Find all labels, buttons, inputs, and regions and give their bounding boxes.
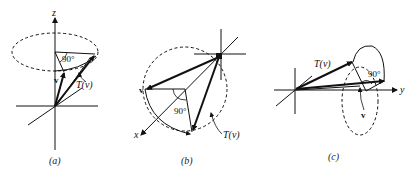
- radius-line: [55, 52, 95, 54]
- panel-b: x 90° v T(v) (b): [133, 29, 246, 167]
- caption-b: (b): [181, 155, 193, 167]
- angle-label: 90°: [62, 54, 75, 64]
- vector-v-label: v: [54, 75, 59, 85]
- angle-arc: [173, 89, 186, 100]
- vector-v-label: v: [139, 85, 144, 95]
- origin-point: [216, 53, 222, 59]
- vector-T-v: [193, 57, 219, 130]
- vector-v-label: v: [361, 110, 366, 120]
- panel-c: y 90° T(v) v (c): [274, 46, 405, 163]
- x-axis-label: x: [133, 129, 139, 140]
- angle-label: 90°: [368, 69, 381, 79]
- transform-label: T(v): [223, 129, 240, 141]
- transform-label: T(v): [314, 58, 331, 70]
- caption-c: (c): [328, 151, 340, 163]
- angle-label: 90°: [174, 106, 187, 116]
- panel-a: z 90° v T(v) (a): [12, 7, 98, 167]
- transform-label: T(v): [76, 79, 93, 91]
- vector-v-leader: [360, 88, 364, 110]
- caption-a: (a): [49, 155, 61, 167]
- vector-v: [147, 57, 219, 89]
- z-axis-label: z: [51, 7, 56, 18]
- diagonal-axis: [276, 76, 312, 106]
- y-axis-label: y: [399, 84, 405, 95]
- rotation-diagram: z 90° v T(v) (a) x: [0, 0, 416, 177]
